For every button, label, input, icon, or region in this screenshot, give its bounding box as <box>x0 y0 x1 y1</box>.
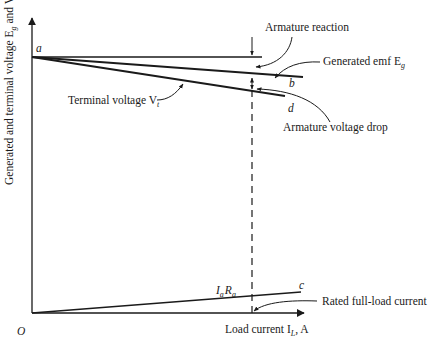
x-axis-label: Load current IL, A <box>225 323 309 338</box>
terminal-voltage-line <box>32 57 285 96</box>
generator-characteristic-diagram: Generated and terminal voltage Eg and Vt… <box>0 0 434 349</box>
generated-emf-label: Generated emf Eg <box>323 55 405 70</box>
y-axis-label: Generated and terminal voltage Eg and Vt <box>3 0 18 185</box>
point-b-label: b <box>289 77 295 89</box>
point-a-label: a <box>36 42 42 54</box>
terminal-voltage-label: Terminal voltage Vt <box>68 94 160 109</box>
armature-voltage-drop-label: Armature voltage drop <box>283 121 388 134</box>
armature-reaction-label: Armature reaction <box>265 21 349 33</box>
generated-emf-line <box>32 57 303 77</box>
point-c-label: c <box>299 279 304 291</box>
point-d-label: d <box>288 102 294 114</box>
origin-label: O <box>17 325 26 337</box>
iara-label: IaRa <box>215 284 236 299</box>
rated-current-leader <box>254 301 317 311</box>
armature-drop-line <box>32 292 301 313</box>
terminal-voltage-leader <box>157 84 183 100</box>
rated-full-load-current-label: Rated full-load current <box>322 295 428 307</box>
armature-reaction-leader <box>256 37 292 67</box>
